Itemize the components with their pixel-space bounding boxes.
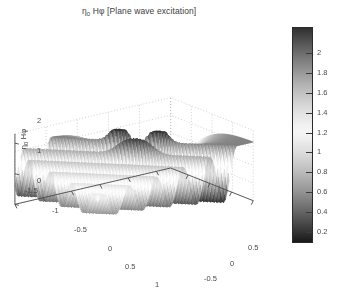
colorbar-tick-label: 1.2 xyxy=(317,129,327,137)
colorbar-tick-label: 0.8 xyxy=(317,169,327,177)
colorbar-tick-mark xyxy=(306,133,312,134)
colorbar-tick-label: 0.2 xyxy=(317,228,327,236)
x-tick-label: 0 xyxy=(108,245,112,253)
z-axis-label-prefix: η xyxy=(19,145,28,149)
colorbar-tick-mark xyxy=(306,113,312,114)
colorbar-tick-mark xyxy=(306,212,312,213)
plot-title-main: Hφ [Plane wave excitation] xyxy=(93,6,197,16)
z-axis-label-subscript: 0 xyxy=(23,142,29,145)
colorbar-tick-label: 1.4 xyxy=(317,109,327,117)
colorbar-tick-mark xyxy=(306,232,312,233)
colorbar-tick-label: 0.4 xyxy=(317,208,327,216)
x-tick-label: 0.5 xyxy=(125,263,135,271)
figure-canvas: η0 Hφ [Plane wave excitation] η0 Hφ -1.5… xyxy=(0,0,347,289)
surface-plot xyxy=(8,22,280,284)
colorbar-tick-label: 0.6 xyxy=(317,188,327,196)
colorbar-tick-label: 1 xyxy=(317,149,321,157)
y-tick-label: 0 xyxy=(230,260,234,268)
colorbar-tick-mark xyxy=(306,53,312,54)
colorbar-tick-mark xyxy=(306,152,312,153)
colorbar-tick-label: 2 xyxy=(317,49,321,57)
colorbar-tick-label: 1.6 xyxy=(317,89,327,97)
z-axis-label: η0 Hφ xyxy=(19,119,29,159)
colorbar-tick-mark xyxy=(306,93,312,94)
colorbar-tick-label: 1.8 xyxy=(317,69,327,77)
x-tick-label: -0.5 xyxy=(74,226,87,234)
y-tick-label: -0.5 xyxy=(204,275,217,283)
colorbar xyxy=(292,27,313,243)
plot-title: η0 Hφ [Plane wave excitation] xyxy=(82,6,196,17)
colorbar-gradient xyxy=(293,28,312,242)
axes-3d: η0 Hφ -1.5-1-0.500.51-1-0.500.5210 x y xyxy=(8,22,280,284)
x-tick-label: 1 xyxy=(155,281,159,289)
colorbar-tick-mark xyxy=(306,172,312,173)
colorbar-tick-mark xyxy=(306,73,312,74)
z-axis-label-main: Hφ xyxy=(19,129,28,140)
x-tick-label: -1.5 xyxy=(25,187,38,195)
x-tick-label: -1 xyxy=(52,207,59,215)
colorbar-tick-mark xyxy=(306,192,312,193)
z-tick-label: 0 xyxy=(37,177,41,185)
plot-title-prefix-subscript: 0 xyxy=(87,11,90,17)
colorbar-group: 21.81.61.41.210.80.60.40.2 xyxy=(292,27,347,249)
z-tick-label: 1 xyxy=(37,147,41,155)
y-tick-label: 0.5 xyxy=(248,244,258,252)
z-tick-label: 2 xyxy=(37,117,41,125)
